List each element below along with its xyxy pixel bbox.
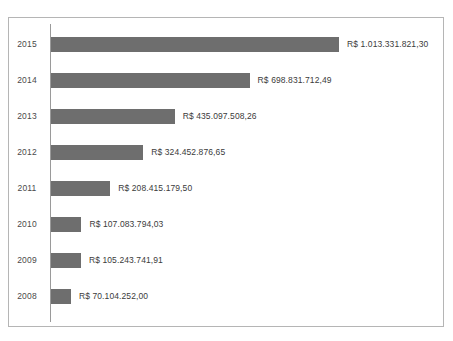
- chart-title: [0, 0, 453, 7]
- bar-value-label-2012: R$ 324.452.876,65: [151, 147, 225, 157]
- bar-row: 2008R$ 70.104.252,00: [9, 278, 445, 314]
- category-label-2013: 2013: [9, 111, 45, 121]
- bar-value-label-2009: R$ 105.243.741,91: [89, 255, 163, 265]
- bar-value-label-2015: R$ 1.013.331.821,30: [347, 39, 428, 49]
- bar-value-label-2010: R$ 107.083.794,03: [89, 219, 163, 229]
- bar-row: 2012R$ 324.452.876,65: [9, 134, 445, 170]
- bar-2015[interactable]: [51, 37, 339, 52]
- bar-row: 2010R$ 107.083.794,03: [9, 206, 445, 242]
- category-label-2014: 2014: [9, 75, 45, 85]
- category-label-2010: 2010: [9, 219, 45, 229]
- bars-container: 2015R$ 1.013.331.821,302014R$ 698.831.71…: [9, 18, 445, 328]
- bar-2009[interactable]: [51, 253, 81, 268]
- bar-2011[interactable]: [51, 181, 110, 196]
- bar-row: 2011R$ 208.415.179,50: [9, 170, 445, 206]
- category-label-2008: 2008: [9, 291, 45, 301]
- category-label-2015: 2015: [9, 39, 45, 49]
- bar-2010[interactable]: [51, 217, 81, 232]
- category-label-2012: 2012: [9, 147, 45, 157]
- bar-row: 2013R$ 435.097.508,26: [9, 98, 445, 134]
- bar-value-label-2008: R$ 70.104.252,00: [79, 291, 148, 301]
- bar-2014[interactable]: [51, 73, 250, 88]
- bar-value-label-2014: R$ 698.831.712,49: [258, 75, 332, 85]
- category-label-2009: 2009: [9, 255, 45, 265]
- bar-value-label-2013: R$ 435.097.508,26: [183, 111, 257, 121]
- bar-2012[interactable]: [51, 145, 143, 160]
- bar-value-label-2011: R$ 208.415.179,50: [118, 183, 192, 193]
- bar-row: 2009R$ 105.243.741,91: [9, 242, 445, 278]
- bar-2013[interactable]: [51, 109, 175, 124]
- bar-row: 2014R$ 698.831.712,49: [9, 62, 445, 98]
- category-label-2011: 2011: [9, 183, 45, 193]
- bar-row: 2015R$ 1.013.331.821,30: [9, 26, 445, 62]
- plot-area: 2015R$ 1.013.331.821,302014R$ 698.831.71…: [8, 17, 444, 327]
- bar-2008[interactable]: [51, 289, 71, 304]
- bar-chart-figure: 2015R$ 1.013.331.821,302014R$ 698.831.71…: [0, 0, 453, 341]
